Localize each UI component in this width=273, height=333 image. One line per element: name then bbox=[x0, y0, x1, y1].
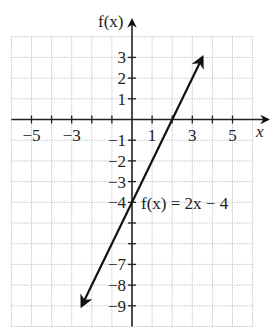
y-tick-label: −9 bbox=[108, 297, 126, 316]
y-tick-label: −1 bbox=[108, 131, 126, 150]
y-tick-label: −3 bbox=[108, 173, 126, 192]
y-tick-labels: 321−1−2−3−4−7−8−9 bbox=[108, 48, 127, 315]
x-tick-label: 3 bbox=[188, 126, 197, 145]
x-axis-label: x bbox=[255, 122, 264, 141]
y-tick-label: 1 bbox=[118, 90, 127, 109]
y-tick-label: −8 bbox=[108, 276, 126, 295]
axes bbox=[11, 20, 268, 327]
x-tick-label: 1 bbox=[148, 126, 157, 145]
x-tick-label: −5 bbox=[22, 126, 40, 145]
y-tick-label: 2 bbox=[118, 69, 127, 88]
equation-label: f(x) = 2x − 4 bbox=[141, 194, 229, 213]
y-tick-label: −2 bbox=[108, 152, 126, 171]
function-graph: −5−3135 321−1−2−3−4−7−8−9 x f(x) f(x) = … bbox=[0, 0, 273, 333]
y-tick-label: −7 bbox=[108, 255, 127, 274]
x-tick-labels: −5−3135 bbox=[22, 126, 236, 145]
y-tick-label: −4 bbox=[108, 193, 127, 212]
y-axis-label: f(x) bbox=[98, 12, 123, 31]
x-tick-label: 5 bbox=[228, 126, 237, 145]
x-tick-label: −3 bbox=[63, 126, 81, 145]
y-tick-label: 3 bbox=[118, 48, 127, 67]
